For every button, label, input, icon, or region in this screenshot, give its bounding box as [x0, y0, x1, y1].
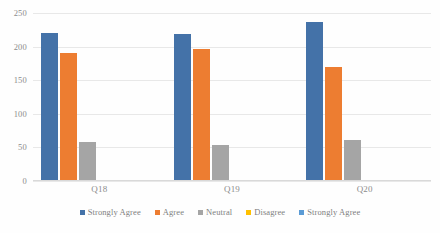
legend-item[interactable]: Neutral [198, 208, 232, 217]
bar [193, 49, 210, 181]
legend-item[interactable]: Strongly Agree [299, 208, 360, 217]
bar-groups [33, 13, 431, 181]
legend-label: Strongly Agree [307, 208, 360, 217]
x-axis-category-label: Q20 [298, 184, 431, 194]
bar [325, 67, 342, 181]
legend-swatch-icon [80, 210, 85, 215]
bar [174, 34, 191, 181]
y-axis-tick-label: 150 [14, 76, 27, 85]
legend-swatch-icon [155, 210, 160, 215]
bar [306, 22, 323, 181]
legend-item[interactable]: Disagree [246, 208, 285, 217]
x-axis-line [33, 180, 431, 181]
bar-chart: 050100150200250 Q18Q19Q20 Strongly Agree… [0, 0, 440, 233]
plot-area [33, 13, 431, 181]
y-axis-tick-label: 50 [18, 143, 27, 152]
y-axis-tick-label: 100 [14, 110, 27, 119]
y-axis-tick-label: 0 [23, 177, 27, 186]
y-axis-tick-label: 200 [14, 42, 27, 51]
legend-label: Disagree [254, 208, 285, 217]
legend-label: Agree [163, 208, 184, 217]
legend-label: Strongly Agree [88, 208, 141, 217]
bar [41, 33, 58, 181]
bar-group [33, 13, 166, 181]
bar-set [33, 13, 166, 181]
bar [79, 142, 96, 181]
bar [344, 140, 361, 181]
legend-swatch-icon [246, 210, 251, 215]
x-axis-category-labels: Q18Q19Q20 [33, 184, 431, 194]
y-axis-tick-labels: 050100150200250 [0, 13, 31, 181]
chart-legend: Strongly AgreeAgreeNeutralDisagreeStrong… [0, 208, 440, 217]
legend-swatch-icon [198, 210, 203, 215]
x-axis-category-label: Q19 [166, 184, 299, 194]
bar-group [298, 13, 431, 181]
bar [60, 53, 77, 181]
bar-set [166, 13, 299, 181]
legend-label: Neutral [206, 208, 232, 217]
legend-item[interactable]: Agree [155, 208, 184, 217]
bar-group [166, 13, 299, 181]
legend-item[interactable]: Strongly Agree [80, 208, 141, 217]
gridline [33, 181, 431, 182]
x-axis-category-label: Q18 [33, 184, 166, 194]
legend-swatch-icon [299, 210, 304, 215]
y-axis-tick-label: 250 [14, 9, 27, 18]
bar-set [298, 13, 431, 181]
bar [212, 145, 229, 181]
